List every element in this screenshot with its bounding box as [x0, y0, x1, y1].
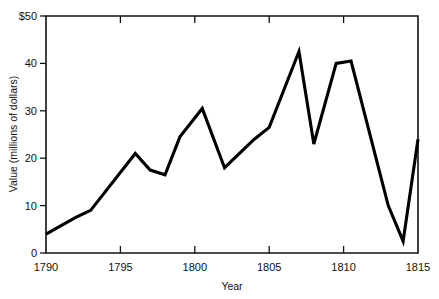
x-tick-label: 1810 [331, 261, 355, 273]
y-axis-tick-labels: 010203040$50 [19, 10, 37, 259]
x-axis-title: Year [221, 280, 243, 292]
y-tick-label: 0 [31, 247, 37, 259]
y-tick-label: 30 [25, 105, 37, 117]
x-axis-ticks [120, 16, 343, 253]
x-tick-label: 1795 [108, 261, 132, 273]
y-tick-label: 20 [25, 152, 37, 164]
series-line-value [46, 52, 418, 242]
y-tick-label: 40 [25, 57, 37, 69]
y-axis-ticks [40, 16, 46, 253]
plot-frame [46, 16, 418, 253]
x-tick-label: 1790 [34, 261, 58, 273]
y-tick-label: 10 [25, 200, 37, 212]
y-tick-label: $50 [19, 10, 37, 22]
line-chart: 010203040$50 179017951800180518101815 Ye… [0, 0, 439, 299]
frame-border [46, 16, 418, 253]
x-tick-label: 1815 [406, 261, 430, 273]
data-series-group [46, 52, 418, 242]
x-tick-label: 1805 [257, 261, 281, 273]
y-axis-title: Value (millions of dollars) [7, 76, 19, 193]
chart-figure: 010203040$50 179017951800180518101815 Ye… [0, 0, 439, 299]
x-tick-label: 1800 [183, 261, 207, 273]
x-axis-tick-labels: 179017951800180518101815 [34, 261, 430, 273]
